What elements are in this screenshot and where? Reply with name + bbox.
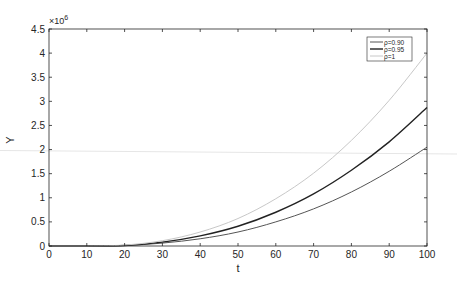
x-tick-label: 80 — [346, 249, 358, 260]
y-tick-label: 3.5 — [31, 72, 45, 83]
y-tick-label: 4 — [39, 48, 45, 59]
x-axis-label: t — [236, 262, 239, 274]
y-tick-label: 3 — [39, 96, 45, 107]
y-exponent-power: 6 — [64, 14, 68, 21]
plot-area-frame — [49, 29, 427, 246]
y-tick-label: 1 — [39, 192, 45, 203]
x-tick-label: 40 — [195, 249, 207, 260]
legend-label: ρ=1 — [384, 53, 395, 61]
y-tick-label: 0.5 — [31, 216, 45, 227]
y-exponent-label: ×106 — [49, 14, 68, 26]
y-tick-label: 4.5 — [31, 24, 45, 35]
x-tick-label: 0 — [46, 249, 52, 260]
x-tick-label: 20 — [119, 249, 131, 260]
x-tick-label: 70 — [308, 249, 320, 260]
plot-lines — [49, 53, 427, 246]
series-line — [49, 53, 427, 246]
y-exponent-base: ×10 — [49, 16, 64, 26]
x-tick-label: 60 — [270, 249, 282, 260]
x-tick-label: 50 — [232, 249, 244, 260]
legend: ρ=0.90ρ=0.95ρ=1 — [367, 37, 412, 61]
x-tick-label: 100 — [419, 249, 436, 260]
y-axis-label: Y — [4, 136, 16, 144]
x-tick-label: 10 — [81, 249, 93, 260]
line-chart: 0102030405060708090100 00.511.522.533.54… — [0, 0, 457, 284]
y-tick-label: 1.5 — [31, 168, 45, 179]
y-tick-label: 0 — [39, 241, 45, 252]
y-tick-label: 2 — [39, 144, 45, 155]
y-tick-label: 2.5 — [31, 120, 45, 131]
series-line — [49, 108, 427, 246]
series-line — [49, 147, 427, 246]
x-tick-label: 90 — [384, 249, 396, 260]
x-tick-label: 30 — [157, 249, 169, 260]
